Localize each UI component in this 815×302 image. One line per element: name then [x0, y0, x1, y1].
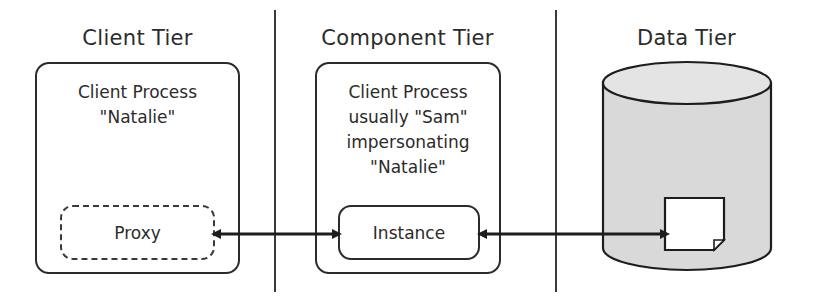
- database-line-2: allows "Natalie": [598, 153, 776, 178]
- component-process-text: Client Process usually "Sam" impersonati…: [313, 80, 503, 180]
- instance-node-label: Instance: [373, 223, 445, 243]
- tier-title-component: Component Tier: [310, 26, 505, 50]
- component-process-line-2: usually "Sam": [313, 105, 503, 130]
- component-process-line-1: Client Process: [313, 80, 503, 105]
- tier-divider-left: [274, 10, 276, 292]
- proxy-node[interactable]: Proxy: [60, 205, 215, 260]
- client-process-line-2: "Natalie": [35, 105, 240, 130]
- database-line-1: Database that: [598, 128, 776, 153]
- client-process-text: Client Process "Natalie": [35, 80, 240, 130]
- tier-divider-right: [555, 10, 557, 292]
- client-process-line-1: Client Process: [35, 80, 240, 105]
- proxy-node-label: Proxy: [114, 223, 161, 243]
- document-page-icon: [665, 198, 724, 250]
- component-process-line-3: impersonating: [313, 130, 503, 155]
- tier-title-client: Client Tier: [35, 26, 240, 50]
- component-process-line-4: "Natalie": [313, 155, 503, 180]
- instance-node[interactable]: Instance: [338, 205, 480, 260]
- tier-title-data: Data Tier: [603, 26, 770, 50]
- diagram-canvas: Client Tier Client Process "Natalie" Pro…: [0, 0, 815, 302]
- database-text: Database that allows "Natalie": [598, 128, 776, 178]
